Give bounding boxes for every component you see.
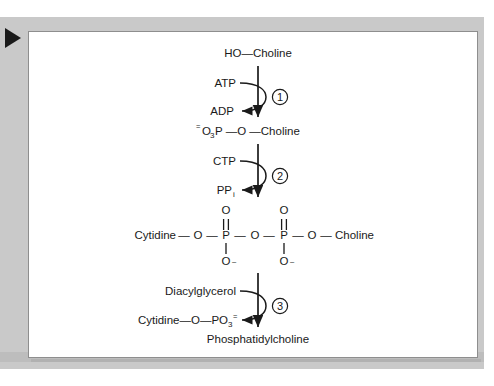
- step-3-substrate-label: Diacylglycerol: [165, 285, 236, 297]
- cdp-bond-1: —: [178, 229, 190, 241]
- node-cdp-choline-structure: Cytidine — O — P — O — P — O — Choline O…: [134, 204, 374, 267]
- play-triangle-icon: [5, 28, 21, 48]
- step-3-product-label: Cytidine—O—PO 3 =: [138, 312, 238, 329]
- cdp-choline-label: Choline: [335, 229, 374, 241]
- cdp-phosphorus-1: P: [222, 229, 230, 241]
- phosphocholine-charge: =: [196, 122, 201, 131]
- cdp-phosphorus-2: P: [280, 229, 288, 241]
- node-phosphatidylcholine-label: Phosphatidylcholine: [207, 333, 309, 345]
- step-3-number-label: 3: [277, 300, 283, 312]
- curved-arrow-step-3: [240, 291, 266, 320]
- cdp-p2-negative-charge: –: [290, 257, 295, 266]
- cdp-cytidine-label: Cytidine: [134, 229, 176, 241]
- cdp-oxygen-2: O: [308, 229, 317, 241]
- cdp-bond-4: —: [263, 229, 275, 241]
- cdp-p2-double-bonded-oxygen: O: [280, 204, 289, 216]
- panel-drop-shadow: [31, 359, 481, 362]
- step-2-product-sub: i: [233, 190, 235, 199]
- cdp-p1-negative-charge: –: [232, 257, 237, 266]
- pathway-diagram: HO—Choline ATP ADP 1 = O 3 P —O —Choline…: [28, 31, 478, 358]
- cdp-bond-2: —: [206, 229, 218, 241]
- cdp-p1-anionic-oxygen: O: [222, 255, 231, 267]
- node-phosphocholine-label: = O 3 P —O —Choline: [196, 122, 300, 140]
- step-3-product-charge: =: [233, 312, 238, 321]
- step-2-substrate-label: CTP: [213, 155, 236, 167]
- cdp-oxygen-bridge: O: [251, 229, 260, 241]
- figure-stage: HO—Choline ATP ADP 1 = O 3 P —O —Choline…: [0, 0, 494, 386]
- step-2-number-label: 2: [277, 170, 283, 182]
- cdp-bond-3: —: [234, 229, 246, 241]
- step-1-product-label: ADP: [210, 105, 234, 117]
- curved-arrow-step-1: [240, 83, 266, 111]
- step-1-substrate-label: ATP: [214, 77, 236, 89]
- step-2-product-label: PP i: [217, 184, 235, 199]
- step-1-number-label: 1: [277, 91, 283, 103]
- curved-arrow-step-2: [240, 161, 266, 190]
- step-3-product-main: Cytidine—O—PO: [138, 314, 228, 326]
- cdp-oxygen-1: O: [194, 229, 203, 241]
- step-3-product-sub: 3: [228, 320, 233, 329]
- node-choline-label: HO—Choline: [224, 47, 292, 59]
- step-2-product-main: PP: [217, 184, 233, 196]
- cdp-p1-double-bonded-oxygen: O: [222, 204, 231, 216]
- cdp-p2-anionic-oxygen: O: [280, 255, 289, 267]
- cdp-bond-6: —: [320, 229, 332, 241]
- phosphocholine-rest: P —O —Choline: [215, 125, 300, 137]
- cdp-bond-5: —: [292, 229, 304, 241]
